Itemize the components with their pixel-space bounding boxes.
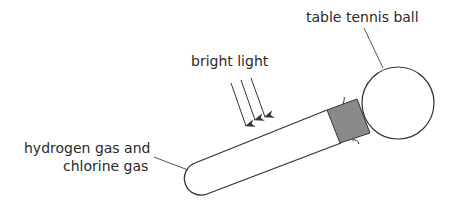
arrow-icon xyxy=(231,83,246,126)
table-tennis-ball xyxy=(362,67,434,139)
arrow-icon xyxy=(251,78,265,117)
gas-leader-line xyxy=(154,157,188,170)
ball-leader-line xyxy=(364,28,383,68)
arrow-icon xyxy=(241,80,255,120)
label-table-tennis-ball: table tennis ball xyxy=(306,8,419,26)
stopper-tape-bottom xyxy=(352,140,359,144)
light-arrows xyxy=(231,78,265,126)
stopper-tape-top xyxy=(343,97,344,104)
test-tube xyxy=(184,110,341,195)
label-gas-line1: hydrogen gas and xyxy=(24,139,150,157)
label-gas-line2: chlorine gas xyxy=(63,157,148,175)
label-bright-light: bright light xyxy=(191,52,268,70)
